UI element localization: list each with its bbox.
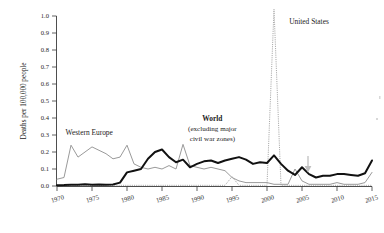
annotation-world-title: World <box>202 114 223 123</box>
annotation-western-europe: Western Europe <box>66 128 114 137</box>
y-tick-label-0.0: 0.0 <box>41 182 50 189</box>
y-tick-label-0.1: 0.1 <box>41 165 49 172</box>
y-tick-label-0.7: 0.7 <box>41 63 50 70</box>
y-tick-label-0.3: 0.3 <box>41 131 50 138</box>
y-tick-label-1.0: 1.0 <box>41 12 50 19</box>
y-tick-label-0.6: 0.6 <box>41 80 50 87</box>
chart-figure: 1.0 0.9 0.8 0.7 0.6 0.5 0.4 0.3 0.2 0.1 … <box>0 0 384 233</box>
annotation-united-states: United States <box>289 17 329 26</box>
annotation-world-subtitle-line1: (excluding major <box>188 125 237 133</box>
y-axis-title: Deaths per 100,000 people <box>20 62 28 139</box>
y-tick-label-0.2: 0.2 <box>41 148 49 155</box>
y-tick-label-0.5: 0.5 <box>41 97 50 104</box>
annotation-world-subtitle-line2: civil war zones) <box>190 135 236 143</box>
line-chart-svg: 1.0 0.9 0.8 0.7 0.6 0.5 0.4 0.3 0.2 0.1 … <box>0 0 384 233</box>
y-tick-label-0.9: 0.9 <box>41 29 50 36</box>
y-tick-label-0.4: 0.4 <box>41 114 50 121</box>
y-tick-label-0.8: 0.8 <box>41 46 50 53</box>
